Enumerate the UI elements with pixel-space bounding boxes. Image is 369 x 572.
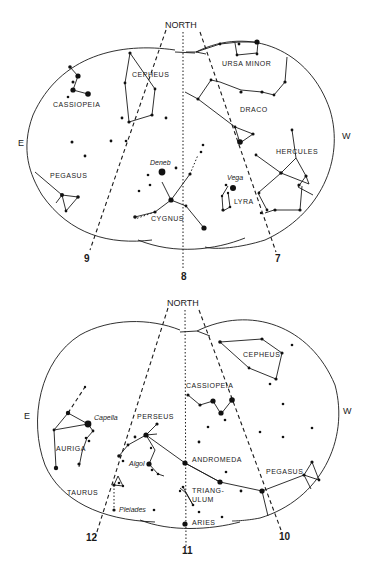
svg-text:PERSEUS: PERSEUS (137, 413, 174, 420)
cepheus-constellation: CEPHEUS (121, 51, 170, 123)
svg-text:CASSIOPEIA: CASSIOPEIA (186, 382, 233, 389)
bearing-number-10: 10 (279, 531, 291, 542)
west-label: W (343, 406, 352, 416)
cepheus-constellation: CEPHEUS (218, 337, 293, 385)
svg-text:ANDROMEDA: ANDROMEDA (192, 456, 242, 463)
west-label: W (342, 131, 351, 141)
svg-text:DRACO: DRACO (240, 106, 268, 113)
hercules-constellation: HERCULES (255, 129, 319, 215)
cassiopeia-constellation: CASSIOPEIA (53, 65, 100, 108)
cygnus-constellation: Deneb CYGNUS (133, 155, 206, 231)
bottom-star-chart: NORTH E W 12 11 10 CEPHEUS CASSIOPEI (24, 298, 352, 556)
svg-text:AURIGA: AURIGA (56, 445, 86, 452)
bearing-line-11 (185, 310, 186, 546)
east-label: E (24, 411, 30, 421)
svg-text:ULUM: ULUM (192, 496, 214, 503)
field-stars-top (71, 140, 205, 158)
svg-text:URSA MINOR: URSA MINOR (222, 60, 271, 67)
pleiades-label: Pleiades (119, 506, 146, 513)
deneb-label: Deneb (150, 159, 171, 166)
horizon-south-arc (140, 520, 240, 529)
bearing-number-7: 7 (275, 253, 281, 264)
perseus-constellation: PERSEUS Algol (117, 413, 220, 482)
lyra-constellation: Vega LYRA (221, 174, 254, 212)
svg-text:TRIANG-: TRIANG- (192, 487, 224, 494)
east-label: E (18, 138, 24, 148)
svg-text:CASSIOPEIA: CASSIOPEIA (53, 101, 100, 108)
svg-text:TAURUS: TAURUS (67, 489, 98, 496)
draco-constellation: DRACO (185, 57, 287, 145)
svg-text:ARIES: ARIES (192, 519, 216, 526)
horizon-north-join (175, 52, 206, 54)
svg-text:HERCULES: HERCULES (276, 148, 318, 155)
pegasus-constellation: PEGASUS (259, 460, 320, 516)
horizon-east-arc (38, 322, 180, 522)
svg-text:LYRA: LYRA (234, 198, 254, 205)
bearing-number-9: 9 (84, 253, 90, 264)
svg-text:PEGASUS: PEGASUS (50, 172, 87, 179)
bearing-number-8: 8 (181, 271, 187, 282)
star-chart-figure: NORTH E W 9 8 7 CASSIOPEIA CEPHEUS (0, 0, 369, 572)
horizon-north-join (180, 331, 210, 336)
pegasus-constellation: PEGASUS (35, 172, 87, 212)
north-label: NORTH (165, 20, 197, 30)
horizon-west-arc (196, 41, 334, 248)
north-label: NORTH (167, 298, 199, 308)
bearing-number-12: 12 (86, 532, 98, 543)
auriga-constellation: Capella AURIGA (53, 386, 118, 470)
svg-text:PEGASUS: PEGASUS (266, 468, 303, 475)
svg-text:CEPHEUS: CEPHEUS (132, 71, 169, 78)
top-star-chart: NORTH E W 9 8 7 CASSIOPEIA CEPHEUS (18, 20, 351, 282)
algol-label: Algol (128, 460, 145, 468)
capella-label: Capella (94, 414, 118, 422)
svg-text:CYGNUS: CYGNUS (151, 215, 184, 222)
aries-constellation: ARIES (182, 516, 223, 527)
cassiopeia-constellation: CASSIOPEIA (186, 382, 235, 421)
svg-text:CEPHEUS: CEPHEUS (243, 351, 280, 358)
vega-label: Vega (227, 174, 243, 182)
taurus-constellation: TAURUS Pleiades (67, 476, 155, 513)
bearing-number-11: 11 (182, 545, 193, 556)
